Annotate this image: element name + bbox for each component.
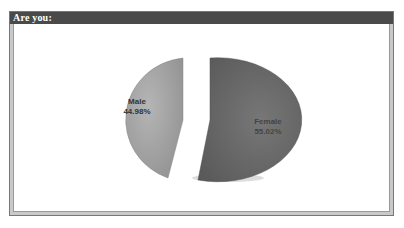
male-label: Male xyxy=(128,97,146,106)
female-label: Female xyxy=(254,117,282,126)
female-pct: 55.02% xyxy=(254,127,281,136)
pie-slice-male[interactable] xyxy=(126,58,183,178)
pie-slice-female[interactable] xyxy=(198,58,302,182)
male-pct: 44.98% xyxy=(123,107,150,116)
pie-chart: Male 44.98% Female 55.02% xyxy=(0,0,404,228)
